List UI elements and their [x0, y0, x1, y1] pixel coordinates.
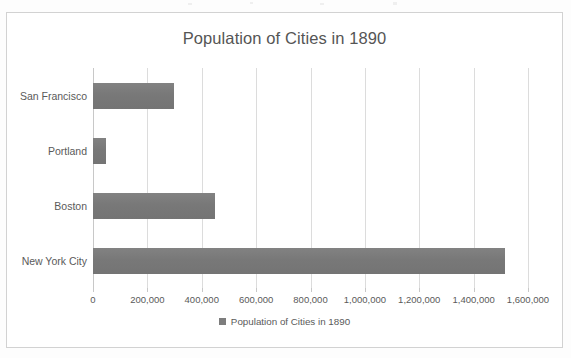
scan-speckle: [250, 2, 253, 4]
x-axis-tick: [528, 288, 529, 292]
legend-swatch-icon: [219, 318, 226, 325]
legend-label: Population of Cities in 1890: [231, 316, 350, 327]
category-axis-label: Portland: [48, 138, 87, 164]
x-axis-tick-label: 200,000: [130, 294, 164, 305]
x-axis-tick: [365, 288, 366, 292]
scanned-page-background: Population of Cities in 1890 0200,000400…: [0, 0, 571, 358]
x-axis-tick-label: 1,000,000: [344, 294, 386, 305]
x-axis-tick-label: 800,000: [293, 294, 327, 305]
chart-container: Population of Cities in 1890 0200,000400…: [6, 12, 563, 348]
category-axis-label: Boston: [54, 193, 87, 219]
x-axis-tick: [311, 288, 312, 292]
chart-title: Population of Cities in 1890: [7, 29, 562, 48]
bar: [93, 193, 215, 219]
gridline: [528, 68, 529, 288]
scan-speckle: [188, 3, 192, 5]
x-axis-tick: [147, 288, 148, 292]
x-axis-tick-label: 600,000: [239, 294, 273, 305]
x-axis-tick-label: 400,000: [185, 294, 219, 305]
x-axis-tick: [93, 288, 94, 292]
category-axis-label: San Francisco: [20, 83, 87, 109]
x-axis-tick-label: 1,600,000: [507, 294, 549, 305]
bar: [93, 138, 106, 164]
x-axis-tick: [202, 288, 203, 292]
x-axis-tick: [474, 288, 475, 292]
scan-speckle: [393, 2, 397, 5]
x-axis-tick-label: 0: [90, 294, 95, 305]
plot-area: 0200,000400,000600,000800,0001,000,0001,…: [93, 68, 528, 288]
chart-legend: Population of Cities in 1890: [7, 316, 562, 327]
bar: [93, 248, 505, 274]
bar: [93, 83, 174, 109]
x-axis-tick: [419, 288, 420, 292]
scan-speckle: [320, 3, 324, 5]
x-axis-tick: [256, 288, 257, 292]
x-axis-tick-label: 1,400,000: [452, 294, 494, 305]
category-axis-label: New York City: [22, 248, 87, 274]
x-axis-tick-label: 1,200,000: [398, 294, 440, 305]
